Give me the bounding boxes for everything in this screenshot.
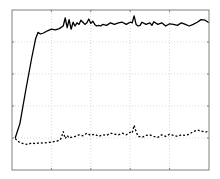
line-chart xyxy=(0,0,220,179)
chart-background xyxy=(0,0,220,179)
